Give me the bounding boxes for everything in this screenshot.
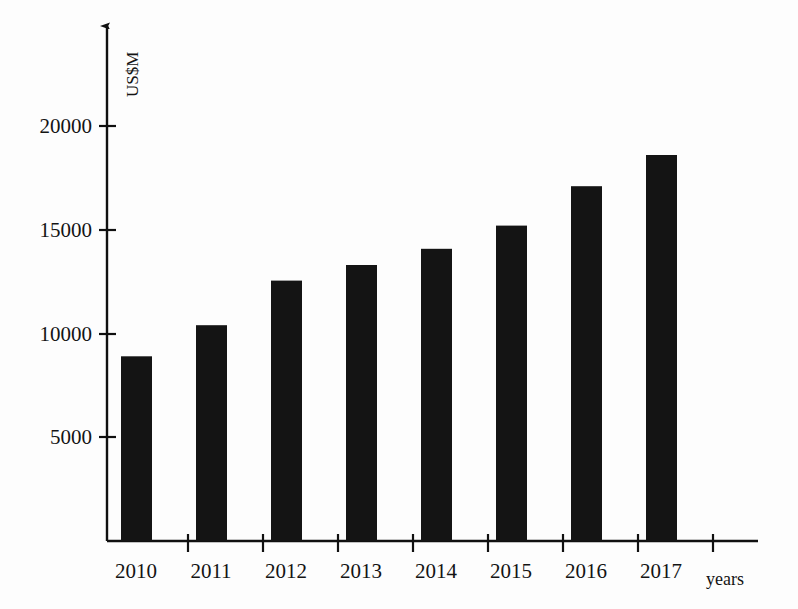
x-axis-title: years — [706, 569, 744, 589]
x-tick-label-2015: 2015 — [490, 559, 532, 583]
bar-2015 — [496, 226, 527, 541]
bar-2017 — [646, 155, 677, 541]
chart-canvas: 20000 15000 10000 5000 US$M — [0, 0, 798, 609]
bar-2013 — [346, 265, 377, 541]
bar-series — [121, 155, 677, 541]
x-tick-label-2012: 2012 — [265, 559, 307, 583]
x-tick-label-2016: 2016 — [565, 559, 607, 583]
y-axis-title: US$M — [123, 52, 142, 97]
x-tick-label-2014: 2014 — [415, 559, 458, 583]
x-tick-label-2010: 2010 — [115, 559, 157, 583]
y-tick-label-20000: 20000 — [40, 114, 93, 138]
x-tick-label-2017: 2017 — [640, 559, 682, 583]
bar-2016 — [571, 186, 602, 541]
bar-2014 — [421, 249, 452, 541]
x-tick-label-2011: 2011 — [190, 559, 231, 583]
y-tick-label-15000: 15000 — [40, 218, 93, 242]
x-tick-label-2013: 2013 — [340, 559, 382, 583]
bar-2010 — [121, 356, 152, 541]
bar-2012 — [271, 281, 302, 541]
bar-chart: 20000 15000 10000 5000 US$M — [0, 0, 798, 609]
y-tick-label-10000: 10000 — [40, 322, 93, 346]
y-tick-label-5000: 5000 — [50, 425, 92, 449]
bar-2011 — [196, 325, 227, 541]
